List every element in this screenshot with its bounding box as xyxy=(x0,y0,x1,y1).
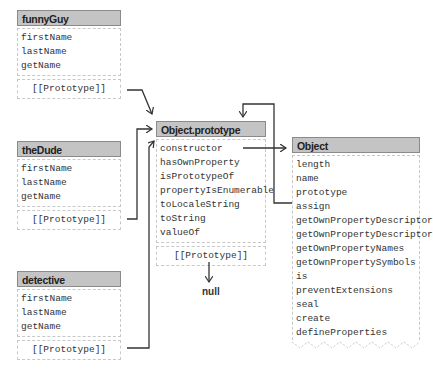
prototype-arrows xyxy=(0,0,433,371)
arrow-thedude-to-object-prototype xyxy=(127,129,152,219)
arrow-funnyguy-to-object-prototype xyxy=(127,90,152,114)
arrow-detective-to-object-prototype xyxy=(127,141,154,348)
arrow-object-prototype-field-back xyxy=(243,104,292,203)
